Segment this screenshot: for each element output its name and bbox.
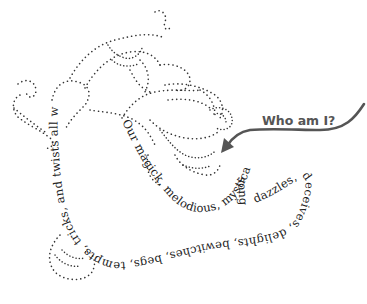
dotted-figure [13,11,232,280]
callout-label: Who am I? [262,113,335,128]
poem-segment-2: song [235,176,251,206]
poem-text: Our magick, melodious, mystical, mythica… [0,0,317,273]
poem-segment-1: Our magick, melodious, mystical, mythica… [0,0,254,215]
genie-illustration: Our magick, melodious, mystical, mythica… [0,0,367,304]
poem-segment-3: dazzles, deceives, delights, bewitches, … [0,0,317,273]
who-am-i-callout: Who am I? [221,104,364,153]
